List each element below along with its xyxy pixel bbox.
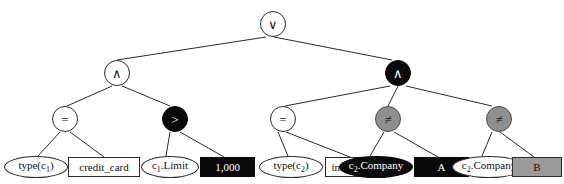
- operator-node-eq-1[interactable]: =: [52, 106, 78, 132]
- tree-edge: [278, 132, 288, 156]
- operator-node-neq-1[interactable]: ≠: [375, 106, 401, 132]
- leaf-node-value-1000[interactable]: 1,000: [200, 157, 255, 177]
- tree-edge: [38, 132, 60, 156]
- tree-edge: [285, 86, 390, 106]
- tree-edge: [370, 132, 384, 156]
- expression-tree-diagram: ∨∧∧=>=≠≠type(c1)credit_cardc1.Limit1,000…: [0, 0, 564, 184]
- tree-edge: [166, 132, 170, 156]
- operator-node-gt-1[interactable]: >: [162, 106, 188, 132]
- operator-node-neq-2[interactable]: ≠: [486, 106, 512, 132]
- operator-node-root[interactable]: ∨: [260, 11, 286, 37]
- tree-edge: [394, 132, 438, 157]
- operator-node-and-right[interactable]: ∧: [385, 60, 411, 86]
- leaf-node-type-c2[interactable]: type(c2): [259, 156, 323, 178]
- tree-edge: [500, 132, 534, 157]
- leaf-node-c2-company-a[interactable]: c2.Company: [339, 156, 413, 178]
- leaf-node-value-b[interactable]: B: [512, 157, 562, 177]
- operator-node-eq-2[interactable]: =: [270, 106, 296, 132]
- tree-edge: [286, 132, 350, 157]
- tree-edge: [122, 86, 170, 106]
- tree-edge: [70, 132, 104, 157]
- leaf-node-credit-card[interactable]: credit_card: [68, 157, 140, 177]
- operator-node-and-left[interactable]: ∧: [104, 60, 130, 86]
- tree-edge: [117, 37, 266, 60]
- tree-edge: [388, 86, 398, 106]
- leaf-node-c1-limit[interactable]: c1.Limit: [141, 156, 199, 178]
- leaf-node-type-c1[interactable]: type(c1): [4, 156, 68, 178]
- tree-edge: [482, 132, 492, 156]
- tree-edge: [274, 37, 392, 60]
- tree-edge: [406, 86, 492, 106]
- tree-edge: [67, 86, 112, 106]
- tree-edge: [180, 132, 224, 157]
